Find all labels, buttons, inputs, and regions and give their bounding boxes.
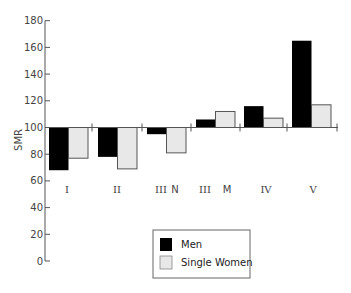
category-labels: IIIIIINIIIMIVV (65, 184, 317, 195)
y-tick-label: 0 (37, 256, 43, 267)
y-axis-title: SMR (13, 129, 24, 151)
y-tick-label: 20 (30, 229, 43, 240)
bar-single-women (167, 128, 187, 153)
bar-single-women (216, 111, 236, 127)
bar-single-women (312, 105, 332, 128)
legend-label-single-women: Single Women (181, 257, 253, 268)
y-tick-label: 160 (24, 42, 43, 53)
bar-men (292, 41, 312, 128)
category-label: III (155, 184, 167, 195)
bar-single-women (264, 118, 284, 127)
category-label: V (308, 184, 317, 195)
y-axis: 020406080100120140160180 (24, 15, 50, 266)
bar-men (98, 128, 118, 157)
y-tick-label: 140 (24, 69, 43, 80)
bar-single-women (118, 128, 138, 169)
y-tick-label: 120 (24, 95, 43, 106)
bars (49, 41, 331, 170)
y-tick-label: 180 (24, 15, 43, 26)
category-label: I (65, 184, 69, 195)
y-tick-label: 60 (30, 175, 43, 186)
legend: Men Single Women (153, 230, 253, 278)
bar-single-women (69, 128, 89, 159)
y-tick-label: 80 (30, 149, 43, 160)
bar-men (147, 128, 167, 135)
legend-swatch-single-women (160, 256, 172, 269)
bar-men (49, 128, 69, 171)
legend-label-men: Men (181, 239, 202, 250)
y-tick-label: 40 (30, 202, 43, 213)
bar-men (244, 106, 264, 127)
category-label: II (113, 184, 121, 195)
legend-swatch-men (160, 238, 172, 251)
smr-bar-chart: 020406080100120140160180 SMR IIIIIINIIIM… (0, 0, 351, 293)
legend-box (153, 230, 250, 278)
y-tick-label: 100 (24, 122, 43, 133)
bar-men (196, 119, 216, 127)
category-label: III (199, 184, 211, 195)
category-label: IV (260, 184, 272, 195)
category-label-suffix: N (171, 184, 178, 195)
category-label-suffix: M (223, 184, 232, 195)
